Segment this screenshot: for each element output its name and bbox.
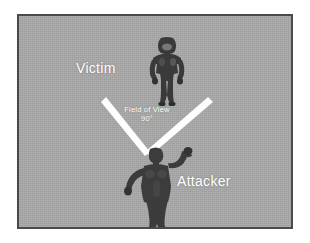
field-of-view-label: Field of View 90° (91, 105, 203, 123)
attacker-label: Attacker (177, 173, 231, 189)
scene-panel: Victim Attacker Field of View 90° (17, 14, 293, 229)
victim-character (144, 36, 190, 106)
field-of-view-angle: 90° (91, 114, 203, 123)
field-of-view-figure: Victim Attacker Field of View 90° (0, 0, 310, 243)
field-of-view-title: Field of View (124, 105, 169, 114)
victim-label: Victim (76, 60, 116, 76)
